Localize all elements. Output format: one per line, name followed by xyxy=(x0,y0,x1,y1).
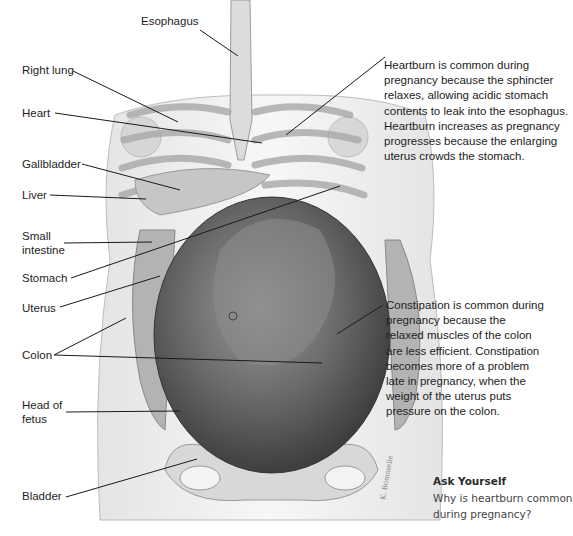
label-bladder: Bladder xyxy=(22,489,62,503)
label-head-of-fetus: Head of fetus xyxy=(22,398,62,426)
label-colon: Colon xyxy=(22,348,52,362)
label-gallbladder: Gallbladder xyxy=(22,157,81,171)
label-right-lung: Right lung xyxy=(22,63,74,77)
ask-yourself-question: Why is heartburn common during pregnancy… xyxy=(433,490,573,522)
ask-yourself-box: Ask Yourself Why is heartburn common dur… xyxy=(433,475,573,522)
label-uterus: Uterus xyxy=(22,301,56,315)
label-small-intestine: Small intestine xyxy=(22,229,65,257)
label-heart: Heart xyxy=(22,106,50,120)
label-esophagus: Esophagus xyxy=(141,14,199,28)
anatomy-figure: K. Bommelle Esophagus Right lung Heart G… xyxy=(0,0,573,536)
esophagus-shape xyxy=(230,0,252,160)
label-stomach: Stomach xyxy=(22,271,67,285)
heartburn-note: Heartburn is common during pregnancy bec… xyxy=(384,58,572,164)
ask-yourself-title: Ask Yourself xyxy=(433,475,573,487)
label-liver: Liver xyxy=(22,188,47,202)
constipation-note: Constipation is common during pregnancy … xyxy=(386,298,546,420)
